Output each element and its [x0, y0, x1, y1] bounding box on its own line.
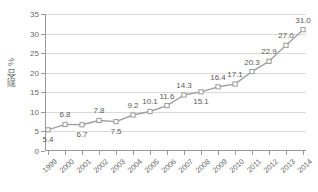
data-point-label: 14.3: [176, 81, 192, 90]
data-point-marker: [97, 118, 101, 122]
data-point-marker: [182, 93, 186, 97]
y-tick-label: 20: [30, 68, 39, 77]
x-tick: [133, 151, 134, 155]
data-point-marker: [148, 109, 152, 113]
data-point-label: 10.1: [142, 97, 158, 106]
data-point-marker: [114, 120, 118, 124]
data-point-marker: [301, 28, 305, 32]
x-tick-label: 2009: [211, 157, 229, 175]
y-tick-label: 25: [30, 49, 39, 58]
data-point-marker: [199, 90, 203, 94]
data-point-label: 16.4: [210, 73, 226, 82]
line-chart: 割合 % 05101520253035 5.46.86.77.87.59.210…: [0, 0, 318, 192]
y-tick: [41, 151, 45, 152]
x-tick-label: 2012: [262, 157, 280, 175]
y-tick-label: 35: [30, 10, 39, 19]
data-point-marker: [267, 59, 271, 63]
x-tick-label: 2007: [177, 157, 195, 175]
x-tick-label: 2001: [75, 157, 93, 175]
x-tick: [65, 151, 66, 155]
series-line: [48, 30, 303, 130]
x-tick-label: 2002: [92, 157, 110, 175]
data-point-label: 11.6: [160, 92, 175, 101]
y-tick-label: 15: [30, 88, 39, 97]
data-point-label: 22.9: [261, 47, 277, 56]
x-tick-label: 2003: [109, 157, 127, 175]
x-tick-label: 2006: [160, 157, 178, 175]
y-tick-label: 5: [35, 127, 39, 136]
x-tick-label: 2014: [296, 157, 314, 175]
data-point-marker: [250, 69, 254, 73]
data-point-marker: [165, 103, 169, 107]
x-tick: [167, 151, 168, 155]
data-point-label: 31.0: [295, 16, 311, 25]
data-point-label: 6.7: [76, 130, 87, 139]
x-tick: [201, 151, 202, 155]
data-point-marker: [284, 43, 288, 47]
x-tick: [150, 151, 151, 155]
y-tick-label: 0: [35, 147, 39, 156]
y-tick-label: 10: [30, 107, 39, 116]
data-point-marker: [63, 122, 67, 126]
x-tick-label: 2005: [143, 157, 161, 175]
x-tick-label: 2011: [245, 157, 263, 174]
y-axis-title: 割合 %: [6, 58, 24, 87]
x-tick: [303, 151, 304, 155]
data-point-label: 7.5: [110, 127, 121, 136]
y-tick-label: 30: [30, 29, 39, 38]
x-tick: [286, 151, 287, 155]
x-tick-label: 2010: [228, 157, 246, 175]
x-tick-label: 2004: [126, 157, 144, 175]
plot-area: 05101520253035 5.46.86.77.87.59.210.111.…: [45, 14, 306, 151]
data-point-marker: [216, 85, 220, 89]
x-tick: [116, 151, 117, 155]
x-tick: [252, 151, 253, 155]
x-tick: [184, 151, 185, 155]
data-point-label: 27.0: [278, 31, 294, 40]
data-point-label: 20.3: [244, 58, 260, 67]
data-point-marker: [80, 123, 84, 127]
x-tick: [235, 151, 236, 155]
data-point-marker: [233, 82, 237, 86]
data-point-label: 5.4: [42, 135, 53, 144]
x-tick-label: 1999: [41, 157, 59, 175]
x-tick: [269, 151, 270, 155]
data-point-label: 6.8: [59, 110, 70, 119]
x-tick: [218, 151, 219, 155]
data-point-label: 9.2: [127, 101, 138, 110]
data-point-marker: [46, 128, 50, 132]
x-tick-label: 2013: [279, 157, 297, 175]
x-tick-label: 2000: [58, 157, 76, 175]
x-tick: [48, 151, 49, 155]
data-point-label: 15.1: [193, 97, 209, 106]
data-point-marker: [131, 113, 135, 117]
x-tick: [99, 151, 100, 155]
x-tick: [82, 151, 83, 155]
data-point-label: 17.1: [227, 70, 243, 79]
x-tick-label: 2008: [194, 157, 212, 175]
data-point-label: 7.8: [93, 106, 104, 115]
